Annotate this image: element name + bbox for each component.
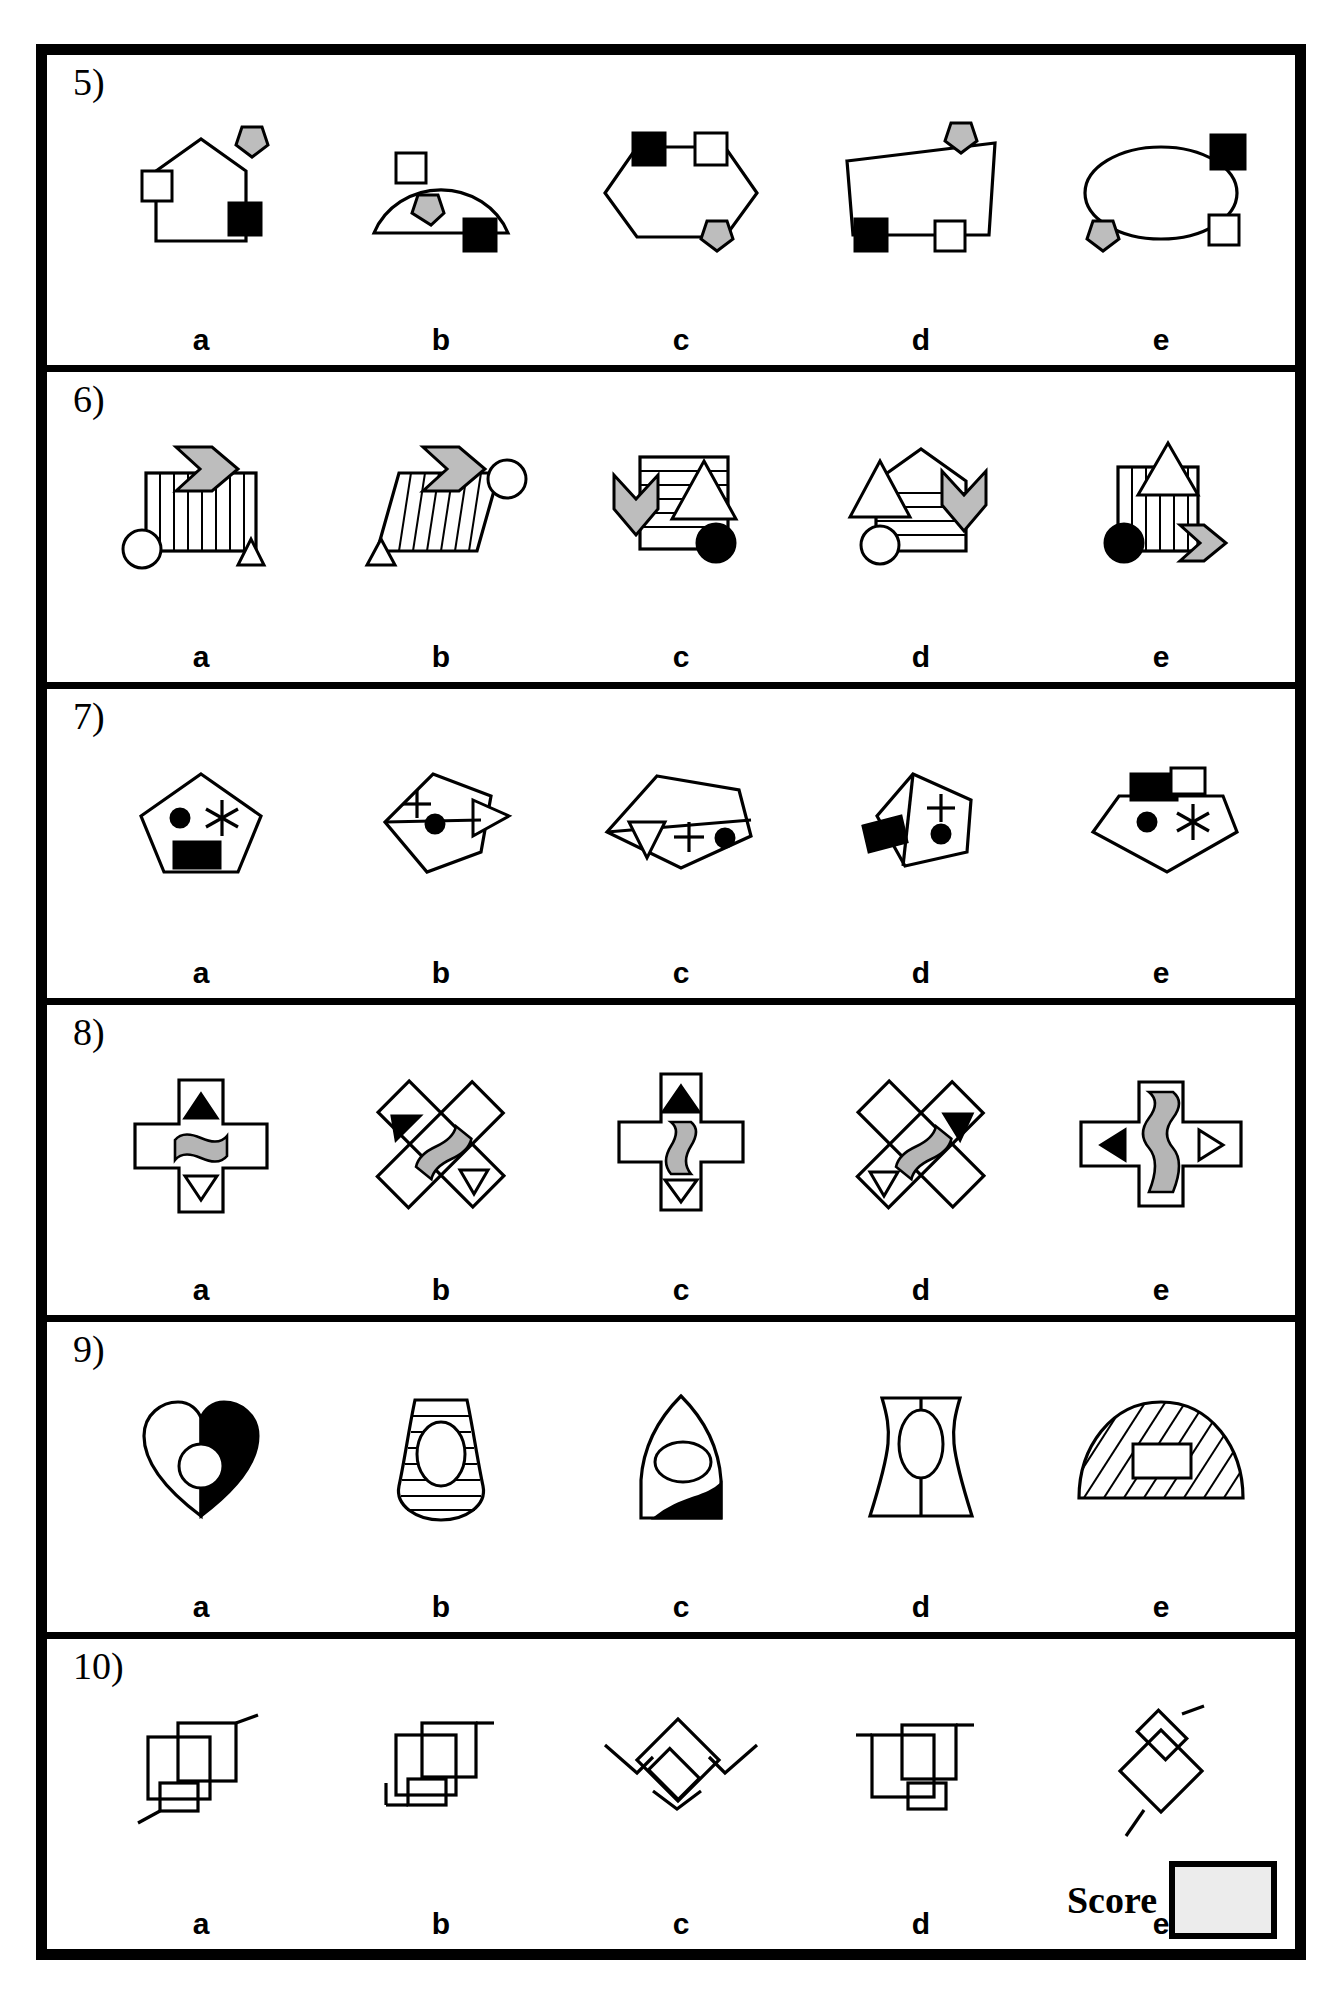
option-9a[interactable]: a	[81, 1330, 321, 1628]
figure-rectangle-vertical-hatch	[81, 380, 321, 636]
option-5d[interactable]: d	[801, 63, 1041, 361]
option-8c[interactable]: c	[561, 1013, 801, 1311]
option-label-5b: b	[432, 321, 450, 355]
score-area: Score	[1067, 1861, 1277, 1939]
option-list-6: a	[81, 380, 1281, 678]
question-row-5: 5) a	[47, 55, 1295, 372]
option-list-7: a	[81, 697, 1281, 995]
option-7b[interactable]: b	[321, 697, 561, 995]
option-9e[interactable]: e	[1041, 1330, 1281, 1628]
figure-heart-half-black	[81, 1330, 321, 1586]
figure-square-horizontal-hatch	[561, 380, 801, 636]
figure-arch-shape	[561, 1330, 801, 1586]
option-9b[interactable]: b	[321, 1330, 561, 1628]
option-10d[interactable]: d	[801, 1647, 1041, 1945]
option-label-5c: c	[673, 321, 690, 355]
figure-hexagon	[561, 63, 801, 319]
figure-pentagon-a	[81, 697, 321, 953]
option-label-9b: b	[432, 1588, 450, 1622]
option-label-7d: d	[912, 954, 930, 988]
figure-semicircle-dome	[321, 63, 561, 319]
option-label-5d: d	[912, 321, 930, 355]
option-6b[interactable]: b	[321, 380, 561, 678]
question-rows: 5) a	[47, 55, 1295, 1949]
option-7e[interactable]: e	[1041, 697, 1281, 995]
option-9c[interactable]: c	[561, 1330, 801, 1628]
score-input-box[interactable]	[1169, 1861, 1277, 1939]
option-list-5: a b	[81, 63, 1281, 361]
option-7d[interactable]: d	[801, 697, 1041, 995]
question-row-7: 7)	[47, 689, 1295, 1006]
figure-overlapping-squares-with-tails	[81, 1647, 321, 1903]
figure-house-pentagon-outline	[81, 63, 321, 319]
figure-rectangle-vertical-hatch-2	[1041, 380, 1281, 636]
figure-overlapping-diamonds-zigzag	[561, 1647, 801, 1903]
option-label-8c: c	[673, 1271, 690, 1305]
question-row-10: 10) a	[47, 1639, 1295, 1949]
figure-trapezoid	[801, 63, 1041, 319]
option-label-8b: b	[432, 1271, 450, 1305]
worksheet-frame: 5) a	[36, 44, 1306, 1960]
figure-lantern-horizontal-hatch	[321, 1330, 561, 1586]
option-label-9e: e	[1153, 1588, 1170, 1622]
option-label-5e: e	[1153, 321, 1170, 355]
option-label-8d: d	[912, 1271, 930, 1305]
figure-ellipse	[1041, 63, 1281, 319]
option-10a[interactable]: a	[81, 1647, 321, 1945]
option-label-9c: c	[673, 1588, 690, 1622]
option-8a[interactable]: a	[81, 1013, 321, 1311]
option-5c[interactable]: c	[561, 63, 801, 361]
option-label-8e: e	[1153, 1271, 1170, 1305]
figure-fan-sector-diagonal-hatch	[1041, 1330, 1281, 1586]
option-5a[interactable]: a	[81, 63, 321, 361]
figure-pentagon-tilted	[801, 697, 1041, 953]
option-10b[interactable]: b	[321, 1647, 561, 1945]
question-row-6: 6)	[47, 372, 1295, 689]
question-row-9: 9) a	[47, 1322, 1295, 1639]
option-label-10b: b	[432, 1905, 450, 1939]
figure-overlapping-squares-variant	[801, 1647, 1041, 1903]
option-label-6d: d	[912, 638, 930, 672]
option-label-10c: c	[673, 1905, 690, 1939]
option-label-10d: d	[912, 1905, 930, 1939]
option-label-7a: a	[193, 954, 210, 988]
figure-pentagon-rotated	[321, 697, 561, 953]
option-5e[interactable]: e	[1041, 63, 1281, 361]
figure-cross-plus	[81, 1013, 321, 1269]
option-6c[interactable]: c	[561, 380, 801, 678]
option-9d[interactable]: d	[801, 1330, 1041, 1628]
question-row-8: 8) a	[47, 1005, 1295, 1322]
option-label-7b: b	[432, 954, 450, 988]
figure-pentagon-wide-e	[1041, 697, 1281, 953]
option-8d[interactable]: d	[801, 1013, 1041, 1311]
option-label-6c: c	[673, 638, 690, 672]
option-6a[interactable]: a	[81, 380, 321, 678]
figure-parallelogram-vertical-hatch	[321, 380, 561, 636]
option-label-10a: a	[193, 1905, 210, 1939]
figure-overlapping-squares-stepped	[321, 1647, 561, 1903]
option-6d[interactable]: d	[801, 380, 1041, 678]
option-label-9d: d	[912, 1588, 930, 1622]
option-10c[interactable]: c	[561, 1647, 801, 1945]
figure-pentagon-house-horizontal-hatch	[801, 380, 1041, 636]
option-label-7e: e	[1153, 954, 1170, 988]
figure-hourglass-concave	[801, 1330, 1041, 1586]
score-label: Score	[1067, 1881, 1157, 1919]
option-7c[interactable]: c	[561, 697, 801, 995]
figure-cross-wide	[1041, 1013, 1281, 1269]
figure-cross-diagonal-d	[801, 1013, 1041, 1269]
option-label-5a: a	[193, 321, 210, 355]
option-5b[interactable]: b	[321, 63, 561, 361]
option-label-6b: b	[432, 638, 450, 672]
figure-cross-tall	[561, 1013, 801, 1269]
option-7a[interactable]: a	[81, 697, 321, 995]
option-8e[interactable]: e	[1041, 1013, 1281, 1311]
option-8b[interactable]: b	[321, 1013, 561, 1311]
option-label-6e: e	[1153, 638, 1170, 672]
figure-cross-diagonal-b	[321, 1013, 561, 1269]
option-label-7c: c	[673, 954, 690, 988]
figure-pentagon-wide	[561, 697, 801, 953]
option-6e[interactable]: e	[1041, 380, 1281, 678]
option-list-9: a	[81, 1330, 1281, 1628]
worksheet-page: 5) a	[0, 0, 1340, 2000]
